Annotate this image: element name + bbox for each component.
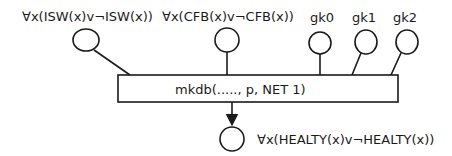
diagram-canvas: ∀x(ISW(x)v¬ISW(x)) ∀x(CFB(x)v¬CFB(x)) gk… — [0, 0, 452, 156]
edge-gk2-to-process — [391, 53, 401, 75]
input-node-gk0 — [309, 32, 331, 54]
input-node-cfb — [215, 28, 239, 52]
input-label-isw: ∀x(ISW(x)v¬ISW(x)) — [22, 9, 153, 24]
input-node-gk1 — [355, 30, 377, 54]
input-label-gk1: gk1 — [352, 10, 376, 25]
input-node-isw — [73, 29, 99, 51]
input-node-gk2 — [396, 30, 418, 54]
input-label-cfb: ∀x(CFB(x)v¬CFB(x)) — [162, 9, 294, 24]
input-label-gk0: gk0 — [310, 10, 334, 25]
process-label: mkdb(....., p, NET 1) — [175, 82, 306, 97]
edge-gk1-to-process — [352, 53, 361, 75]
output-label-healty: ∀x(HEALTY(x)v¬HEALTY(x)) — [257, 132, 434, 147]
output-node-healty — [220, 127, 244, 151]
edge-isw-to-process — [94, 50, 130, 75]
input-label-gk2: gk2 — [393, 10, 417, 25]
